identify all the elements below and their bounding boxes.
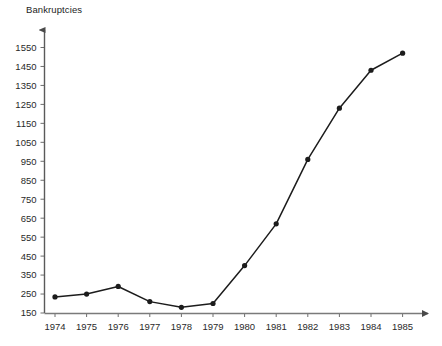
y-tick-label: 250 xyxy=(21,288,37,299)
x-tick-label: 1982 xyxy=(297,321,318,332)
x-axis-ticks: 1974197519761977197819791980198119821983… xyxy=(44,313,413,332)
data-point-marker xyxy=(52,294,57,299)
x-tick-label: 1976 xyxy=(108,321,129,332)
y-tick-label: 350 xyxy=(21,269,37,280)
bankruptcies-line-chart: Bankruptcies 150250350450550650750850950… xyxy=(0,0,442,346)
data-point-marker xyxy=(179,305,184,310)
data-point-marker xyxy=(242,263,247,268)
y-tick-label: 450 xyxy=(21,251,37,262)
y-tick-label: 950 xyxy=(21,156,37,167)
y-tick-label: 650 xyxy=(21,213,37,224)
y-tick-label: 1550 xyxy=(15,42,36,53)
x-tick-label: 1985 xyxy=(392,321,413,332)
x-tick-label: 1975 xyxy=(76,321,97,332)
x-tick-label: 1977 xyxy=(139,321,160,332)
y-tick-label: 750 xyxy=(21,194,37,205)
x-tick-label: 1981 xyxy=(266,321,287,332)
y-tick-label: 850 xyxy=(21,175,37,186)
x-tick-label: 1974 xyxy=(44,321,65,332)
data-point-marker xyxy=(84,291,89,296)
data-point-marker xyxy=(116,284,121,289)
y-tick-label: 1150 xyxy=(16,118,36,129)
data-point-marker xyxy=(210,301,215,306)
y-tick-label: 1350 xyxy=(15,80,36,91)
data-point-marker xyxy=(305,157,310,162)
y-tick-label: 1250 xyxy=(15,99,36,110)
y-axis-ticks: 1502503504505506507508509501050115012501… xyxy=(15,42,44,319)
x-tick-label: 1979 xyxy=(202,321,223,332)
y-tick-label: 1450 xyxy=(15,61,36,72)
data-point-marker xyxy=(400,51,405,56)
data-point-marker xyxy=(368,68,373,73)
chart-plot-area: 1502503504505506507508509501050115012501… xyxy=(0,0,442,346)
y-tick-label: 1050 xyxy=(15,137,36,148)
data-point-marker xyxy=(274,221,279,226)
y-tick-label: 150 xyxy=(21,307,37,318)
data-series-markers xyxy=(52,51,405,310)
data-series-line xyxy=(55,53,403,307)
x-tick-label: 1978 xyxy=(171,321,192,332)
x-tick-label: 1980 xyxy=(234,321,255,332)
x-tick-label: 1984 xyxy=(360,321,381,332)
data-point-marker xyxy=(337,106,342,111)
y-tick-label: 550 xyxy=(21,232,37,243)
x-tick-label: 1983 xyxy=(329,321,350,332)
data-point-marker xyxy=(147,299,152,304)
